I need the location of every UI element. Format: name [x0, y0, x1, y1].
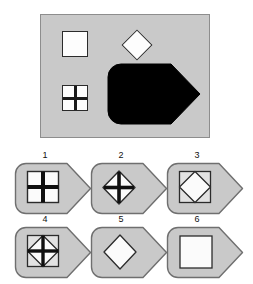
- stimulus-panel: [40, 14, 210, 138]
- stimulus-square-plain: [62, 31, 88, 57]
- option-5-tag-shape: [90, 226, 169, 279]
- stimulus-tag-solid-black: [107, 63, 202, 125]
- option-6-tag-shape: [166, 226, 245, 279]
- option-2[interactable]: 2: [90, 150, 169, 216]
- stimulus-diamond-plain: [121, 29, 152, 60]
- option-4-number: 4: [14, 214, 76, 225]
- option-6-number: 6: [166, 214, 228, 225]
- option-3-tag-shape: [166, 162, 245, 215]
- option-2-number: 2: [90, 150, 152, 161]
- options-grid: 1 2: [0, 150, 253, 284]
- option-1[interactable]: 1: [14, 150, 93, 216]
- shape-analogy-puzzle: 1 2: [0, 0, 253, 284]
- option-6[interactable]: 6: [166, 214, 245, 280]
- option-3[interactable]: 3: [166, 150, 245, 216]
- option-1-number: 1: [14, 150, 76, 161]
- option-3-number: 3: [166, 150, 228, 161]
- option-2-tag-shape: [90, 162, 169, 215]
- option-5-number: 5: [90, 214, 152, 225]
- option-4[interactable]: 4: [14, 214, 93, 280]
- option-5[interactable]: 5: [90, 214, 169, 280]
- option-4-tag-shape: [14, 226, 93, 279]
- option-1-tag-shape: [14, 162, 93, 215]
- stimulus-square-cross: [62, 85, 88, 111]
